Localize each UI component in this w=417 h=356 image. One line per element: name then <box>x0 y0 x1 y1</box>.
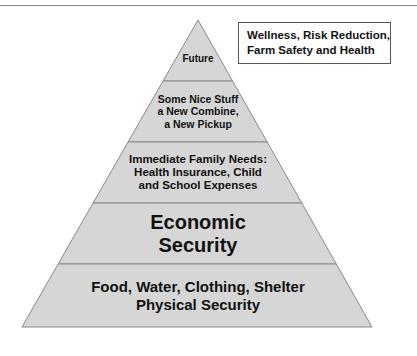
level-label-family-needs: Immediate Family Needs: Health Insurance… <box>129 153 267 193</box>
level-label-economic-security: Economic Security <box>150 211 246 257</box>
callout-box: Wellness, Risk Reduction, Farm Safety an… <box>238 22 391 64</box>
level-label-physical-security: Food, Water, Clothing, Shelter Physical … <box>91 278 305 313</box>
level-label-nice-stuff: Some Nice Stuff a New Combine, a New Pic… <box>157 93 238 129</box>
pyramid-level-future <box>163 20 233 81</box>
level-label-future: Future <box>182 53 213 65</box>
